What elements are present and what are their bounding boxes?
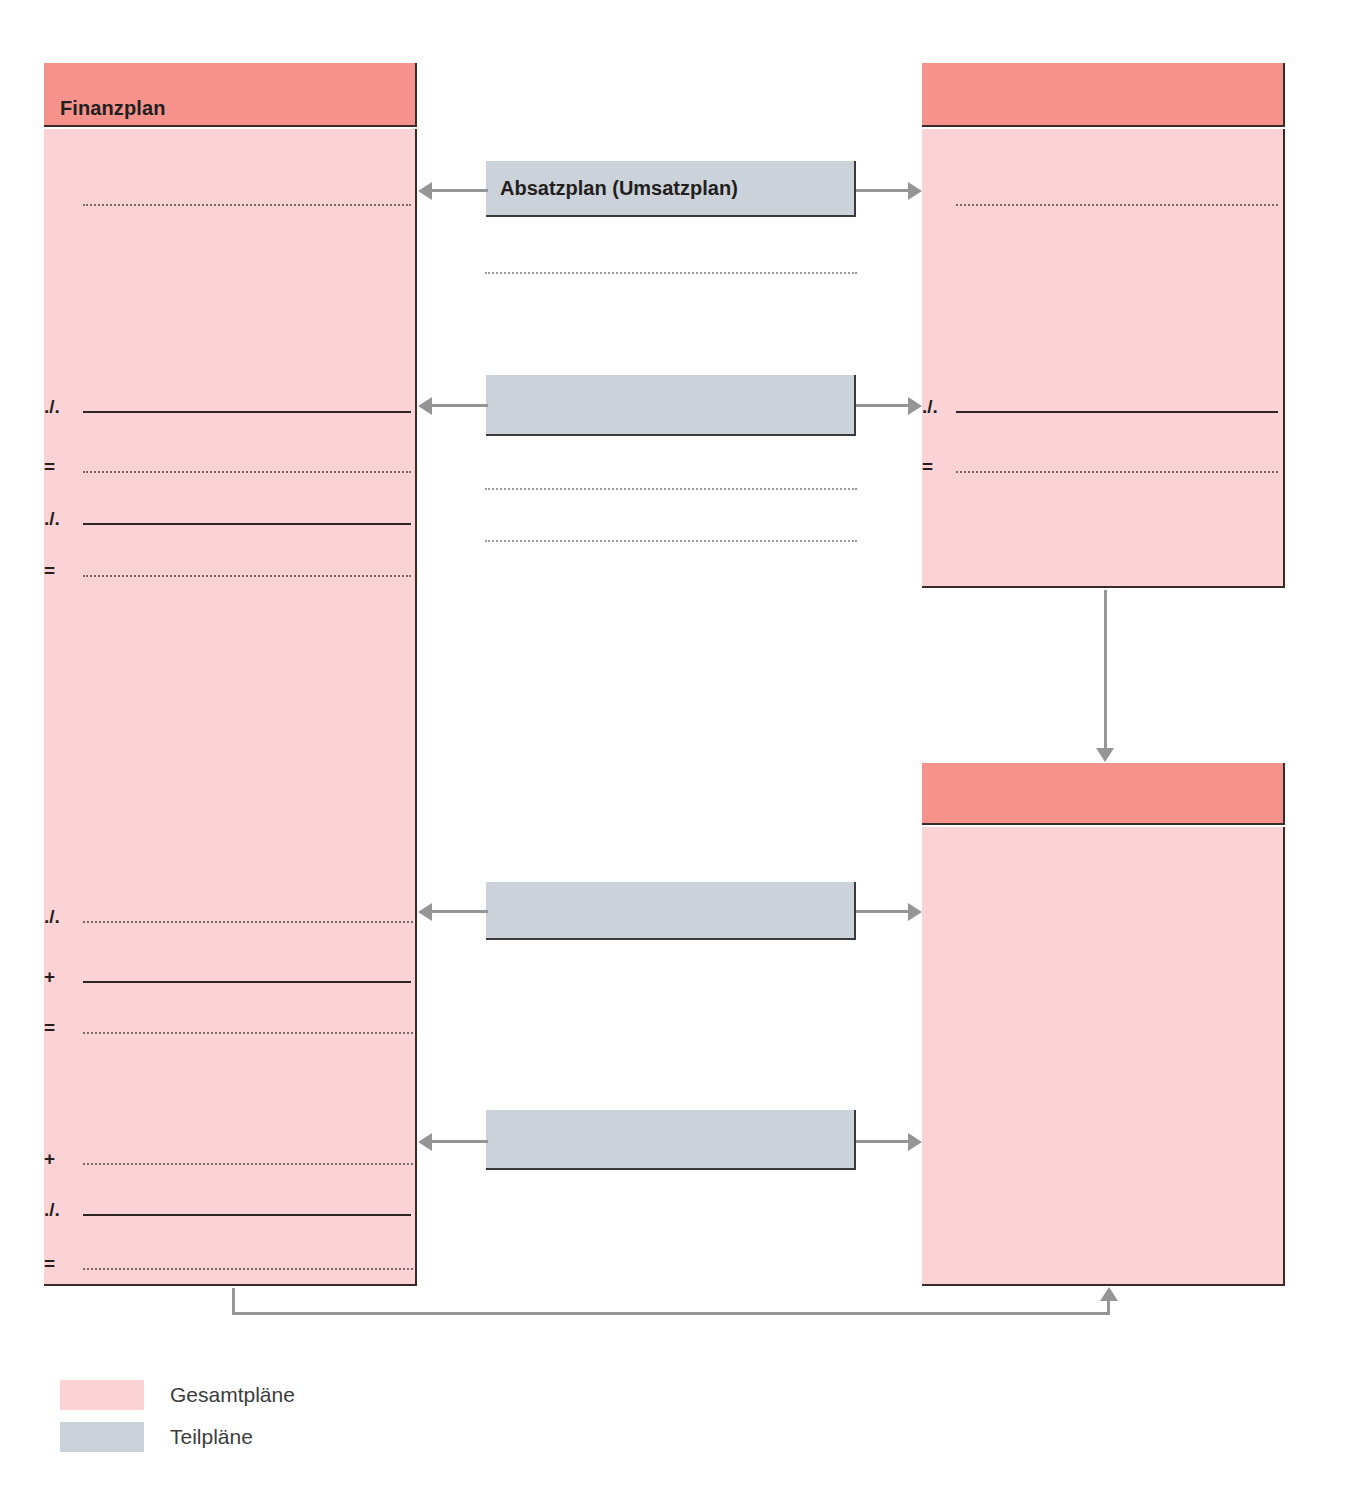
row-operator: + [44, 1149, 72, 1169]
row-entry-line[interactable] [83, 981, 411, 983]
row-entry-line[interactable] [956, 471, 1278, 473]
legend-label: Teilpläne [170, 1422, 253, 1452]
left-plan-row: ./. [44, 1196, 417, 1216]
sub-plan-box-4[interactable] [486, 1110, 856, 1170]
legend-label: Gesamtpläne [170, 1380, 295, 1410]
left-plan-row: = [44, 557, 417, 577]
arrow-left-icon [418, 1133, 432, 1151]
row-entry-line[interactable] [83, 1268, 413, 1270]
row-entry-line[interactable] [83, 1214, 411, 1216]
connector-line [856, 189, 908, 192]
connector-line [432, 404, 488, 407]
left-plan-row: ./. [44, 903, 417, 923]
left-plan-row [44, 186, 417, 206]
row-operator: ./. [44, 1200, 72, 1220]
feedback-connector-horizontal [232, 1312, 1110, 1315]
row-operator: + [44, 967, 72, 987]
row-entry-line[interactable] [83, 1163, 413, 1165]
left-plan-row: ./. [44, 393, 417, 413]
right-bottom-plan-body [922, 827, 1285, 1286]
arrow-right-icon [908, 182, 922, 200]
right-bottom-plan-header [922, 763, 1285, 825]
arrow-left-icon [418, 397, 432, 415]
row-entry-line[interactable] [83, 411, 411, 413]
arrow-left-icon [418, 903, 432, 921]
right-top-plan-row: ./. [922, 393, 1285, 413]
left-plan-row: = [44, 453, 417, 473]
connector-line [856, 404, 908, 407]
right-top-plan-row: = [922, 453, 1285, 473]
left-plan-row: + [44, 1145, 417, 1165]
left-plan-header: Finanzplan [44, 63, 417, 127]
row-entry-line[interactable] [83, 471, 411, 473]
center-entry-line[interactable] [485, 272, 857, 274]
row-entry-line[interactable] [956, 411, 1278, 413]
row-operator: = [44, 457, 72, 477]
left-plan-row: = [44, 1250, 417, 1270]
row-operator: = [44, 1254, 72, 1274]
connector-line [432, 1140, 488, 1143]
left-plan-body [44, 129, 417, 1286]
sub-plan-box-3[interactable] [486, 882, 856, 940]
row-operator: = [922, 457, 950, 477]
feedback-connector-vertical-right [1107, 1300, 1110, 1313]
row-entry-line[interactable] [83, 1032, 413, 1034]
row-entry-line[interactable] [83, 921, 413, 923]
arrow-down-icon [1096, 748, 1114, 762]
arrow-left-icon [418, 182, 432, 200]
right-top-plan-header [922, 63, 1285, 127]
legend: Gesamtpläne Teilpläne [60, 1380, 460, 1470]
feedback-connector-vertical-left [232, 1288, 235, 1315]
row-entry-line[interactable] [956, 204, 1278, 206]
arrow-right-icon [908, 397, 922, 415]
left-plan-row: ./. [44, 505, 417, 525]
arrow-right-icon [908, 903, 922, 921]
diagram-canvas: Finanzplan ./. = ./. = ./. + = + ./. [0, 0, 1357, 1508]
arrow-right-icon [908, 1133, 922, 1151]
legend-swatch-gray [60, 1422, 144, 1452]
sub-plan-label: Absatzplan (Umsatzplan) [500, 177, 738, 200]
left-plan-row: = [44, 1014, 417, 1034]
row-operator: = [44, 1018, 72, 1038]
row-operator: ./. [44, 397, 72, 417]
row-operator: = [44, 561, 72, 581]
row-operator: ./. [922, 397, 950, 417]
connector-line [432, 189, 488, 192]
connector-line [856, 910, 908, 913]
left-plan-row: + [44, 963, 417, 983]
left-plan-title: Finanzplan [60, 97, 165, 120]
row-operator: ./. [44, 907, 72, 927]
arrow-up-icon [1100, 1287, 1118, 1301]
connector-line [856, 1140, 908, 1143]
center-entry-line[interactable] [485, 540, 857, 542]
right-top-plan-row [922, 186, 1285, 206]
row-entry-line[interactable] [83, 575, 411, 577]
sub-plan-box-absatzplan[interactable]: Absatzplan (Umsatzplan) [486, 161, 856, 217]
row-entry-line[interactable] [83, 204, 411, 206]
row-operator: ./. [44, 509, 72, 529]
row-entry-line[interactable] [83, 523, 411, 525]
center-entry-line[interactable] [485, 488, 857, 490]
connector-line-vertical [1104, 590, 1107, 748]
legend-swatch-pink [60, 1380, 144, 1410]
sub-plan-box-2[interactable] [486, 375, 856, 436]
connector-line [432, 910, 488, 913]
